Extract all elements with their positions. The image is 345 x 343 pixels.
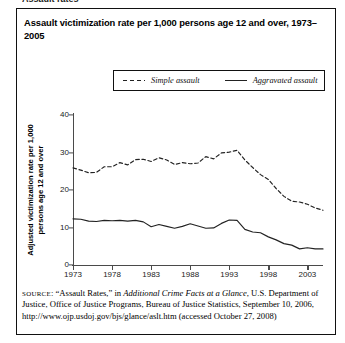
- y-tick-mark: [69, 189, 74, 190]
- x-tick-mark: [229, 265, 230, 270]
- x-tick-mark: [307, 265, 308, 270]
- x-tick-label: 1978: [103, 271, 121, 279]
- x-tick-mark: [73, 265, 74, 270]
- chart-legend: Simple assault Aggravated assault: [113, 70, 325, 91]
- figure-panel: Assault rates Assault victimization rate…: [0, 0, 345, 343]
- y-axis-title: Adjusted victimization rate per 1,000 pe…: [26, 115, 40, 265]
- x-tick-mark: [268, 265, 269, 270]
- x-tick-label: 1993: [220, 271, 238, 279]
- source-label: SOURCE: [22, 290, 51, 297]
- y-tick-label: 10: [60, 224, 69, 232]
- y-tick-label: 40: [60, 111, 69, 119]
- x-tick-label: 1988: [181, 271, 199, 279]
- source-note: SOURCE: “Assault Rates,” in Additional C…: [22, 288, 328, 322]
- x-tick-mark: [190, 265, 191, 270]
- legend-item-simple-assault: Simple assault: [123, 76, 200, 85]
- y-tick-label: 30: [60, 149, 69, 157]
- y-tick-mark: [69, 114, 74, 115]
- y-tick-mark: [69, 152, 74, 153]
- solid-line-swatch-icon: [225, 77, 247, 85]
- x-tick-label: 1983: [142, 271, 160, 279]
- source-text-1: : “Assault Rates,” in: [51, 288, 123, 298]
- legend-label-simple-assault: Simple assault: [151, 76, 200, 85]
- series-line-aggravated-assault: [73, 219, 323, 249]
- legend-label-aggravated-assault: Aggravated assault: [253, 76, 318, 85]
- x-tick-mark: [151, 265, 152, 270]
- y-tick-label: 20: [60, 186, 69, 194]
- data-lines: [73, 115, 323, 265]
- legend-item-aggravated-assault: Aggravated assault: [225, 76, 318, 85]
- y-tick-label: 0: [65, 261, 69, 269]
- chart-title: Assault victimization rate per 1,000 per…: [24, 16, 324, 42]
- series-line-simple-assault: [73, 150, 323, 210]
- x-tick-label: 2003: [298, 271, 316, 279]
- x-tick-label: 1998: [259, 271, 277, 279]
- x-tick-mark: [112, 265, 113, 270]
- source-italic-1: Additional Crime Facts at a Glance: [123, 288, 246, 298]
- clipped-header-text: Assault rates: [22, 0, 142, 6]
- x-tick-label: 1973: [64, 271, 82, 279]
- y-tick-mark: [69, 227, 74, 228]
- dashed-line-swatch-icon: [123, 77, 145, 85]
- plot-area: 010203040 1973197819831988199319982003: [73, 115, 323, 265]
